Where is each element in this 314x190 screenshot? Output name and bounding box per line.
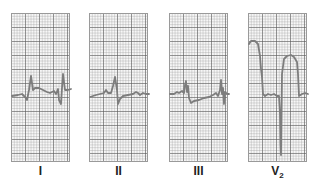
ecg-strip-lead-iii [169, 13, 228, 162]
ecg-strip-lead-v2 [248, 13, 307, 162]
lead-label-iii: III [169, 164, 228, 178]
ecg-strip-lead-ii [89, 13, 148, 162]
ecg-strip-lead-i [11, 13, 70, 162]
lead-label-v2-subscript: 2 [279, 171, 283, 180]
ecg-trace-lead-v2 [249, 14, 308, 163]
ecg-trace-lead-iii [170, 14, 229, 163]
lead-label-ii: II [89, 164, 148, 178]
lead-label-v2: V2 [248, 164, 307, 180]
lead-label-i: I [11, 164, 70, 178]
ecg-trace-lead-i [12, 14, 71, 163]
ecg-trace-lead-ii [90, 14, 149, 163]
